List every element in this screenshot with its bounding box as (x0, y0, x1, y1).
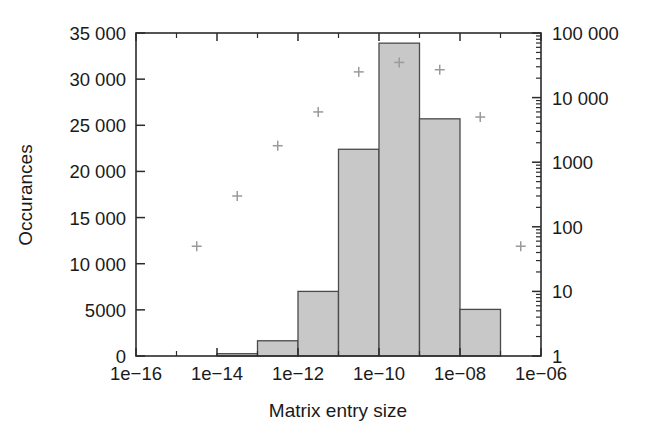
x-tick-label: 1e−10 (353, 363, 405, 384)
histogram-bar (298, 291, 339, 356)
y-tick-label: 30 000 (69, 69, 126, 90)
y-tick-label-right: 10 (552, 281, 573, 302)
histogram-bar (379, 43, 420, 356)
y-tick-label: 10 000 (69, 254, 126, 275)
y-tick-label-right: 10 000 (552, 88, 609, 109)
histogram-bar (339, 149, 380, 356)
y-tick-label: 20 000 (69, 161, 126, 182)
chart-canvas: 1e−161e−141e−121e−101e−081e−06 0500010 0… (0, 0, 671, 437)
x-tick-label: 1e−08 (434, 363, 486, 384)
y-tick-label: 15 000 (69, 208, 126, 229)
y-tick-label-right: 100 000 (552, 23, 619, 44)
y-axis-title: Occurances (15, 144, 36, 245)
histogram-chart: 1e−161e−141e−121e−101e−081e−06 0500010 0… (0, 0, 671, 437)
x-tick-label: 1e−12 (272, 363, 324, 384)
x-axis-title: Matrix entry size (269, 400, 407, 421)
histogram-bar (460, 309, 501, 356)
y-tick-label-right: 1 (552, 346, 562, 367)
histogram-bar (258, 341, 299, 356)
x-tick-label: 1e−14 (191, 363, 243, 384)
y-tick-label: 25 000 (69, 115, 126, 136)
y-tick-label-right: 1000 (552, 152, 593, 173)
y-tick-label: 35 000 (69, 23, 126, 44)
y-tick-label: 5000 (85, 300, 126, 321)
y-tick-label-right: 100 (552, 217, 583, 238)
y-tick-label: 0 (116, 346, 126, 367)
histogram-bar (420, 119, 461, 356)
